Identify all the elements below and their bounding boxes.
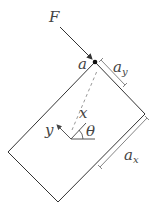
rigid-body-rectangle	[8, 62, 145, 202]
label-ay: ay	[113, 58, 128, 77]
theta-arc	[79, 130, 83, 139]
force-arrow	[60, 27, 92, 59]
label-axis-x: x	[79, 104, 88, 122]
x-axis-line	[71, 123, 86, 139]
point-a-dot	[93, 60, 98, 65]
label-theta: θ	[86, 122, 95, 140]
y-axis-arrow	[57, 125, 71, 139]
label-axis-y: y	[44, 121, 54, 139]
label-force: F	[48, 8, 60, 26]
rigid-body-diagram: F a ay ax x y θ	[0, 0, 157, 210]
label-ax: ax	[124, 146, 139, 165]
label-point-a: a	[78, 55, 87, 73]
